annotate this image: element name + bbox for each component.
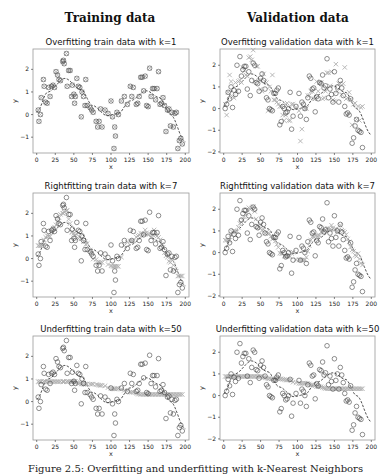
data-point xyxy=(235,63,240,68)
prediction-marker xyxy=(270,73,274,77)
data-point xyxy=(180,286,185,291)
data-point xyxy=(313,254,318,259)
data-point xyxy=(291,114,296,119)
x-tick-label: 150 xyxy=(142,300,154,307)
data-point xyxy=(334,91,339,96)
x-tick-label: 150 xyxy=(329,156,341,163)
x-tick-label: 50 xyxy=(257,300,265,307)
data-point xyxy=(223,106,228,111)
prediction-marker xyxy=(298,139,302,143)
data-point xyxy=(79,402,84,407)
x-axis-label: x xyxy=(296,163,300,171)
data-point xyxy=(147,353,152,358)
data-point xyxy=(257,233,262,238)
prediction-marker xyxy=(340,92,344,96)
data-point xyxy=(171,412,176,417)
data-point xyxy=(72,388,77,393)
x-axis-label: x xyxy=(296,450,300,458)
data-point xyxy=(159,388,164,393)
data-point xyxy=(76,228,81,233)
y-tick-label: −2 xyxy=(207,292,216,299)
data-point xyxy=(46,372,51,377)
data-point xyxy=(353,268,358,273)
data-point xyxy=(289,271,294,276)
y-axis-label: y xyxy=(198,243,206,247)
data-point xyxy=(294,391,299,396)
data-point xyxy=(353,411,358,416)
data-point xyxy=(230,392,235,397)
x-tick-label: 50 xyxy=(70,443,78,450)
x-tick-label: 50 xyxy=(70,300,78,307)
x-tick-label: 100 xyxy=(292,156,304,163)
prediction-marker xyxy=(251,48,255,52)
x-axis-label: x xyxy=(109,163,113,171)
x-tick-label: 75 xyxy=(89,300,97,307)
x-tick-label: 25 xyxy=(238,443,246,450)
figure-grid: Overfitting train data with k=1025507510… xyxy=(0,0,391,474)
data-point xyxy=(298,401,303,406)
data-point xyxy=(174,254,179,259)
x-tick-label: 75 xyxy=(275,300,283,307)
x-tick-label: 200 xyxy=(180,300,192,307)
y-axis-label: y xyxy=(11,386,19,390)
subplot-title: Overfitting validation data with k=1 xyxy=(221,37,374,47)
y-tick-label: 2 xyxy=(212,205,216,212)
data-point xyxy=(344,256,349,261)
data-point xyxy=(357,129,362,134)
data-point xyxy=(109,243,114,248)
data-point xyxy=(122,381,127,386)
data-point xyxy=(48,238,53,243)
data-point xyxy=(304,117,309,122)
data-point xyxy=(119,243,124,248)
data-point xyxy=(37,406,42,411)
data-point xyxy=(246,356,251,361)
data-point xyxy=(354,261,359,266)
y-tick-label: 0 xyxy=(212,392,216,399)
data-point xyxy=(260,216,265,221)
x-tick-label: 75 xyxy=(275,156,283,163)
data-point xyxy=(106,255,111,260)
data-point xyxy=(130,381,135,386)
data-point xyxy=(332,213,337,218)
x-tick-label: 175 xyxy=(161,156,173,163)
data-point xyxy=(310,374,315,379)
data-point xyxy=(334,378,339,383)
y-tick-label: −1 xyxy=(207,126,216,133)
data-point xyxy=(95,269,100,274)
data-point xyxy=(238,198,243,203)
x-tick-label: 50 xyxy=(70,156,78,163)
prediction-marker xyxy=(332,99,336,103)
x-tick-label: 200 xyxy=(366,300,378,307)
data-point xyxy=(57,364,62,369)
data-point xyxy=(110,402,115,407)
data-point xyxy=(72,245,77,250)
data-point xyxy=(337,100,342,105)
x-tick-label: 0 xyxy=(222,443,226,450)
data-point xyxy=(112,412,117,417)
data-point xyxy=(342,391,347,396)
y-tick-label: 1 xyxy=(212,370,216,377)
data-point xyxy=(325,343,330,348)
data-point xyxy=(83,364,88,369)
data-point xyxy=(180,429,185,434)
data-point xyxy=(328,374,333,379)
subplot-validation-k7: Rightfitting validation data with k=7025… xyxy=(198,181,377,315)
data-point xyxy=(164,416,169,421)
data-point xyxy=(106,398,111,403)
data-point xyxy=(297,91,302,96)
data-point xyxy=(283,255,288,260)
data-point xyxy=(75,363,80,368)
data-point xyxy=(149,238,154,243)
data-point xyxy=(235,207,240,212)
y-tick-label: −2 xyxy=(207,435,216,442)
data-point xyxy=(64,195,69,200)
x-tick-label: 75 xyxy=(89,443,97,450)
data-point xyxy=(176,433,181,438)
data-point xyxy=(238,341,243,346)
data-point xyxy=(332,356,337,361)
data-point xyxy=(97,406,102,411)
data-point xyxy=(351,136,356,141)
data-point xyxy=(83,221,88,226)
data-point xyxy=(342,104,347,109)
subplot-title: Rightfitting validation data with k=7 xyxy=(220,181,375,191)
